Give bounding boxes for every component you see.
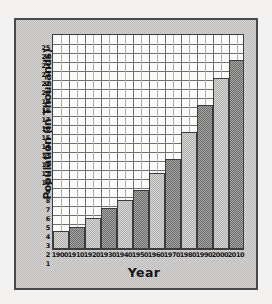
bar-1970 xyxy=(165,159,181,249)
y-axis-tick-label: 20 xyxy=(30,90,50,97)
y-axis-tick-label: 7 xyxy=(30,207,50,214)
x-axis-tick-label: 2000 xyxy=(212,252,229,259)
y-axis-tick-label: 16 xyxy=(30,126,50,133)
y-axis-tick-label: 15 xyxy=(30,135,50,142)
y-axis-tick-label: 18 xyxy=(30,108,50,115)
y-axis-tick-label: 25 xyxy=(30,45,50,52)
x-axis-tick-label: 1910 xyxy=(68,252,85,259)
x-axis-tick-label: 1940 xyxy=(116,252,133,259)
x-axis-tick-label: 1960 xyxy=(148,252,165,259)
y-axis-tick-label: 3 xyxy=(30,243,50,250)
y-axis-tick-labels: 1234567891011121314151617181920212223242… xyxy=(30,34,50,250)
bar-1930 xyxy=(101,208,117,249)
x-axis-tick-label: 1930 xyxy=(100,252,117,259)
chart-panel: Population (in Thousands) 12345678910111… xyxy=(14,18,258,290)
y-axis-tick-label: 14 xyxy=(30,144,50,151)
bar-1980 xyxy=(181,132,197,249)
x-axis-tick-label: 1950 xyxy=(132,252,149,259)
y-axis-tick-label: 17 xyxy=(30,117,50,124)
y-axis-tick-label: 9 xyxy=(30,189,50,196)
x-axis-title: Year xyxy=(44,265,244,280)
y-axis-tick-label: 4 xyxy=(30,234,50,241)
bar-2010 xyxy=(229,60,244,249)
y-axis-tick-label: 6 xyxy=(30,216,50,223)
bar-1900 xyxy=(53,231,69,249)
x-axis-tick-label: 1990 xyxy=(196,252,213,259)
bar-series xyxy=(53,35,243,249)
bar-1910 xyxy=(69,227,85,250)
y-axis-tick-label: 2 xyxy=(30,252,50,259)
x-axis-tick-label: 1980 xyxy=(180,252,197,259)
y-axis-tick-label: 8 xyxy=(30,198,50,205)
bar-2000 xyxy=(213,78,229,249)
y-axis-tick-label: 24 xyxy=(30,54,50,61)
y-axis-tick-label: 23 xyxy=(30,63,50,70)
bar-1990 xyxy=(197,105,213,249)
y-axis-tick-label: 12 xyxy=(30,162,50,169)
bar-1960 xyxy=(149,173,165,250)
bar-1920 xyxy=(85,218,101,249)
plot-area xyxy=(52,34,244,250)
y-axis-tick-label: 5 xyxy=(30,225,50,232)
x-axis-tick-label: 1900 xyxy=(52,252,69,259)
y-axis-tick-label: 11 xyxy=(30,171,50,178)
x-axis-tick-label: 1970 xyxy=(164,252,181,259)
y-axis-tick-label: 22 xyxy=(30,72,50,79)
x-axis-tick-label: 1920 xyxy=(84,252,101,259)
y-axis-tick-label: 10 xyxy=(30,180,50,187)
x-axis-tick-label: 2010 xyxy=(228,252,245,259)
y-axis-tick-label: 13 xyxy=(30,153,50,160)
chart-page: Population (in Thousands) 12345678910111… xyxy=(0,0,272,304)
bar-1950 xyxy=(133,190,149,249)
y-axis-tick-label: 21 xyxy=(30,81,50,88)
bar-1940 xyxy=(117,200,133,250)
y-axis-tick-label: 19 xyxy=(30,99,50,106)
x-axis-tick-labels: 1900191019201930194019501960197019801990… xyxy=(52,252,244,264)
